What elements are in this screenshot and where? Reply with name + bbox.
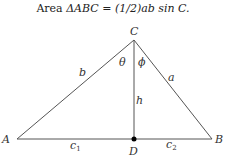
triangle-diagram: C A B D b a h c1 c2 θ ϕ (0, 0, 226, 166)
angle-label-theta: θ (119, 56, 126, 69)
vertex-label-a: A (1, 133, 10, 146)
side-label-b: b (79, 66, 86, 79)
side-label-h: h (136, 94, 143, 107)
foot-point-d (132, 137, 137, 142)
segment-label-c2: c2 (166, 138, 177, 152)
vertex-label-c: C (130, 25, 139, 38)
side-label-a: a (168, 71, 175, 84)
vertex-label-d: D (128, 145, 138, 158)
vertex-label-b: B (214, 133, 223, 146)
side-b (17, 40, 134, 139)
side-a (134, 40, 212, 139)
angle-label-phi: ϕ (138, 56, 146, 69)
segment-label-c1: c1 (70, 139, 81, 153)
